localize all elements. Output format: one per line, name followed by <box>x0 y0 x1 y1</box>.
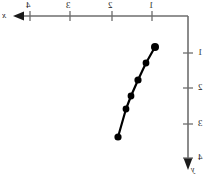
y-tick-label-3: 3 <box>198 119 203 128</box>
data-series <box>114 43 159 141</box>
data-point <box>134 76 141 83</box>
y-tick-label-2: 2 <box>198 83 203 92</box>
x-tick-label-2: 2 <box>108 1 113 10</box>
y-axis-group <box>183 16 193 170</box>
x-tick-label-4: 4 <box>26 1 31 10</box>
data-point <box>123 106 130 113</box>
plot-canvas: 4 3 2 1 x 1 2 3 4 y <box>0 0 207 175</box>
x-tick-label-3: 3 <box>66 1 71 10</box>
x-axis-label: x <box>2 11 6 20</box>
y-tick-label-4: 4 <box>198 153 203 162</box>
x-tick-label-1: 1 <box>149 1 154 10</box>
plot-graphics <box>0 0 207 175</box>
series-line <box>118 47 155 137</box>
data-point <box>114 133 121 140</box>
x-axis-arrowhead <box>13 12 24 21</box>
y-tick-label-1: 1 <box>198 48 203 57</box>
data-point <box>128 93 135 100</box>
data-point <box>151 43 159 51</box>
y-axis-label: y <box>191 166 195 174</box>
x-axis-group <box>13 11 188 21</box>
data-point <box>143 60 150 67</box>
